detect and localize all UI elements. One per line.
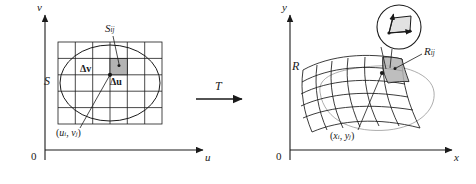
delta-v-label: Δv [80,64,91,74]
cell-label-r-ij-base: R [424,45,431,57]
axis-label-y: y [282,2,287,13]
axis-label-x: x [454,152,459,163]
point-label-ui-vj: (ui, vj) [56,128,81,138]
region-label-s: S [44,75,50,87]
cell-r-ij-highlight [383,57,409,83]
paren-close-uv: ) [77,127,80,138]
delta-u-label: Δu [110,77,122,87]
change-of-variables-figure: v 0 u S Sij Δv Δu (ui, vj) T y 0 x R Rij… [0,0,476,184]
point-label-xi-yj: (xi, yj) [330,131,354,141]
transform-label-t: T [215,80,222,92]
cell-label-r-ij: Rij [424,46,435,57]
point-ui-vj-leader [80,75,110,128]
cell-label-r-ij-subscript: ij [431,49,435,57]
paren-close-xy: ) [351,130,354,141]
axis-label-u: u [205,152,211,163]
origin-label-right: 0 [276,151,282,162]
left-panel-axes [45,15,203,160]
cell-r-ij-dot [394,67,397,70]
region-label-r: R [292,60,299,72]
magnifier-lens [377,5,421,49]
axis-label-v: v [37,2,42,13]
cell-s-ij-dot [118,64,121,67]
right-panel-axes [290,15,452,160]
cell-label-s-ij: Sij [105,23,115,34]
origin-label-left: 0 [31,151,37,162]
cell-label-s-ij-subscript: ij [111,26,115,34]
figure-canvas [0,0,476,184]
